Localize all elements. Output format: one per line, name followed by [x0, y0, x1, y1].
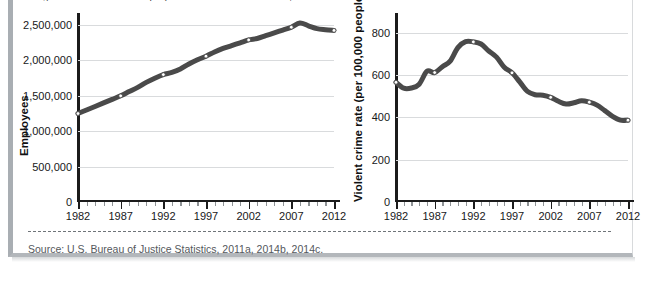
x-axis-minor-tick: [180, 202, 181, 206]
data-point-marker: [433, 71, 437, 75]
data-series-violent-crime-rate: [396, 18, 628, 202]
x-axis-minor-tick: [308, 202, 309, 206]
x-axis-major-tick: [334, 202, 336, 209]
chart-violent-crime-rate: Violent crime rate (per 100,000 people) …: [350, 6, 630, 212]
y-axis-tick-label: 2,500,000: [23, 19, 72, 31]
data-point-marker: [587, 100, 591, 104]
x-axis-minor-tick: [466, 202, 467, 206]
x-axis-minor-tick: [520, 202, 521, 206]
chart-employees-plot-area: 0500,0001,000,0001,500,0002,000,0002,500…: [78, 18, 334, 202]
y-axis-tick-label: 600: [372, 69, 390, 81]
y-axis-tick-label: 1,000,000: [23, 125, 72, 137]
y-axis-tick-label: 800: [372, 27, 390, 39]
x-axis-minor-tick: [527, 202, 528, 206]
x-axis-major-tick: [512, 202, 514, 209]
x-axis-minor-tick: [535, 202, 536, 206]
data-point-marker: [161, 73, 165, 77]
x-axis-tick-label: 2007: [279, 210, 303, 222]
x-axis-major-tick: [163, 202, 165, 209]
x-axis-minor-tick: [172, 202, 173, 206]
data-point-marker: [332, 28, 336, 32]
x-axis-tick-label: 1982: [66, 210, 90, 222]
x-axis-minor-tick: [458, 202, 459, 206]
x-axis-tick-label: 1992: [461, 210, 485, 222]
x-axis-major-tick: [589, 202, 591, 209]
x-axis-major-tick: [291, 202, 293, 209]
series-line: [78, 23, 334, 114]
y-axis-tick-label: 2,000,000: [23, 54, 72, 66]
x-axis-minor-tick: [283, 202, 284, 206]
x-axis-minor-tick: [274, 202, 275, 206]
x-axis-tick-label: 1987: [108, 210, 132, 222]
x-axis-major-tick: [121, 202, 123, 209]
x-axis-major-tick: [435, 202, 437, 209]
x-axis-tick-label: 2002: [236, 210, 260, 222]
x-axis-minor-tick: [155, 202, 156, 206]
x-axis-minor-tick: [605, 202, 606, 206]
x-axis-minor-tick: [257, 202, 258, 206]
x-axis-tick-label: 1997: [500, 210, 524, 222]
x-axis-major-tick: [396, 202, 398, 209]
x-axis-minor-tick: [481, 202, 482, 206]
x-axis-minor-tick: [240, 202, 241, 206]
x-axis-tick-label: 1982: [384, 210, 408, 222]
x-axis-major-tick: [551, 202, 553, 209]
y-axis-tick-label: 1,500,000: [23, 90, 72, 102]
x-axis-tick-label: 1997: [194, 210, 218, 222]
data-point-marker: [471, 40, 475, 44]
figure-source-note: Source: U.S. Bureau of Justice Statistic…: [28, 243, 323, 255]
figure-caption-text: Figure 1 Correctional employees and viol…: [34, 0, 454, 1]
data-point-marker: [626, 118, 630, 122]
x-axis-minor-tick: [582, 202, 583, 206]
x-axis-minor-tick: [489, 202, 490, 206]
data-point-marker: [119, 94, 123, 98]
x-axis-tick-label: 2012: [322, 210, 346, 222]
x-axis-minor-tick: [597, 202, 598, 206]
x-axis-minor-tick: [613, 202, 614, 206]
x-axis-minor-tick: [189, 202, 190, 206]
x-axis-tick-label: 1992: [151, 210, 175, 222]
x-axis-minor-tick: [566, 202, 567, 206]
figure-divider-dashed: [28, 231, 611, 232]
x-axis-minor-tick: [419, 202, 420, 206]
chart-crime-plot-area: 0200400600800198219871992199720022007201…: [396, 18, 628, 202]
x-axis-minor-tick: [223, 202, 224, 206]
data-series-employees: [78, 18, 334, 202]
data-point-marker: [76, 112, 80, 116]
x-axis-minor-tick: [558, 202, 559, 206]
x-axis-tick-label: 2007: [577, 210, 601, 222]
x-axis-minor-tick: [574, 202, 575, 206]
x-axis-minor-tick: [427, 202, 428, 206]
x-axis-minor-tick: [620, 202, 621, 206]
x-axis-minor-tick: [129, 202, 130, 206]
x-axis-tick-label: 2002: [538, 210, 562, 222]
y-axis-tick-label: 200: [372, 154, 390, 166]
series-line: [396, 41, 628, 120]
x-axis-minor-tick: [404, 202, 405, 206]
y-axis-tick-label: 500,000: [32, 161, 72, 173]
x-axis-tick-label: 1987: [422, 210, 446, 222]
x-axis-minor-tick: [543, 202, 544, 206]
x-axis-minor-tick: [411, 202, 412, 206]
x-axis-minor-tick: [504, 202, 505, 206]
x-axis-minor-tick: [232, 202, 233, 206]
x-axis-minor-tick: [146, 202, 147, 206]
x-axis-minor-tick: [442, 202, 443, 206]
data-point-marker: [549, 95, 553, 99]
data-point-marker: [204, 54, 208, 58]
x-axis-minor-tick: [215, 202, 216, 206]
data-point-marker: [394, 80, 398, 84]
x-axis-minor-tick: [87, 202, 88, 206]
x-axis-minor-tick: [197, 202, 198, 206]
y-axis-tick-label: 0: [66, 196, 72, 208]
x-axis-major-tick: [473, 202, 475, 209]
x-axis-minor-tick: [450, 202, 451, 206]
y-axis-tick-label: 400: [372, 111, 390, 123]
x-axis-minor-tick: [138, 202, 139, 206]
chart-employees: Employees 0500,0001,000,0001,500,0002,00…: [14, 6, 344, 212]
x-axis-minor-tick: [497, 202, 498, 206]
x-axis-major-tick: [78, 202, 80, 209]
x-axis-major-tick: [206, 202, 208, 209]
chart-crime-y-axis-label: Violent crime rate (per 100,000 people): [352, 0, 364, 202]
x-axis-major-tick: [628, 202, 630, 209]
